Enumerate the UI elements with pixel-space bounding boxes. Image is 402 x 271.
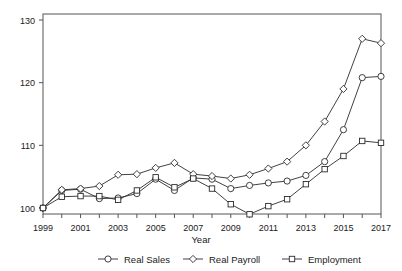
data-point-circle <box>378 73 384 79</box>
x-axis-title: Year <box>191 234 210 245</box>
legend-item-real-sales[interactable]: Real Sales <box>98 254 170 265</box>
data-point-square <box>209 186 214 191</box>
data-point-diamond <box>115 171 122 178</box>
legend-label: Employment <box>308 254 361 265</box>
data-point-square <box>228 202 233 207</box>
plot-frame <box>43 14 381 214</box>
x-axis-ticks <box>43 214 381 218</box>
data-point-square <box>191 176 196 181</box>
y-tick-label: 130 <box>20 16 35 26</box>
x-tick-label: 2001 <box>71 223 91 233</box>
x-tick-label: 2005 <box>146 223 166 233</box>
data-point-circle <box>359 75 365 81</box>
x-tick-label: 2013 <box>296 223 316 233</box>
data-point-circle <box>228 185 234 191</box>
x-tick-label: 1999 <box>33 223 53 233</box>
data-point-square <box>97 193 102 198</box>
data-point-diamond <box>359 35 366 42</box>
data-point-circle <box>303 172 309 178</box>
data-point-square <box>134 188 139 193</box>
data-point-diamond <box>340 85 347 92</box>
data-point-square <box>247 212 252 217</box>
data-point-square <box>172 185 177 190</box>
data-point-square <box>115 197 120 202</box>
series-group <box>39 35 384 217</box>
data-point-circle <box>340 127 346 133</box>
y-axis-tick-labels: 100110120130 <box>20 16 35 214</box>
legend-item-employment[interactable]: Employment <box>282 254 361 265</box>
legend-marker-square <box>289 256 294 261</box>
y-tick-label: 110 <box>21 141 35 151</box>
x-tick-label: 2017 <box>371 223 391 233</box>
data-point-diamond <box>96 182 103 189</box>
x-axis-tick-labels: 1999200120032005200720092011201320152017 <box>33 223 391 233</box>
data-point-diamond <box>246 171 253 178</box>
data-point-diamond <box>377 40 384 47</box>
series-real-payroll <box>39 35 384 211</box>
data-point-square <box>360 138 365 143</box>
x-tick-label: 2011 <box>259 223 278 233</box>
data-point-square <box>322 166 327 171</box>
data-point-circle <box>322 159 328 165</box>
line-chart: 100110120130 199920012003200520072009201… <box>0 0 402 271</box>
data-point-diamond <box>227 175 234 182</box>
legend-marker-circle <box>105 256 111 262</box>
data-point-circle <box>265 180 271 186</box>
legend-marker-diamond <box>189 255 196 262</box>
y-tick-label: 120 <box>20 78 35 88</box>
data-point-diamond <box>265 165 272 172</box>
data-point-square <box>78 193 83 198</box>
data-point-circle <box>284 178 290 184</box>
data-point-square <box>284 197 289 202</box>
legend-label: Real Payroll <box>209 254 260 265</box>
data-point-diamond <box>152 164 159 171</box>
data-point-square <box>378 140 383 145</box>
chart-container: 100110120130 199920012003200520072009201… <box>0 0 402 271</box>
data-point-square <box>153 175 158 180</box>
x-tick-label: 2009 <box>221 223 241 233</box>
legend-label: Real Sales <box>124 254 170 265</box>
data-point-square <box>341 153 346 158</box>
legend-item-real-payroll[interactable]: Real Payroll <box>183 254 260 265</box>
y-axis-ticks <box>39 20 43 208</box>
x-tick-label: 2015 <box>333 223 353 233</box>
data-point-square <box>40 205 45 210</box>
y-tick-label: 100 <box>20 204 35 214</box>
data-point-square <box>266 203 271 208</box>
data-point-square <box>59 194 64 199</box>
x-tick-label: 2007 <box>183 223 203 233</box>
data-point-square <box>303 181 308 186</box>
data-point-circle <box>246 182 252 188</box>
data-point-diamond <box>133 171 140 178</box>
x-tick-label: 2003 <box>108 223 128 233</box>
chart-legend: Real SalesReal PayrollEmployment <box>98 254 361 265</box>
data-point-diamond <box>171 159 178 166</box>
